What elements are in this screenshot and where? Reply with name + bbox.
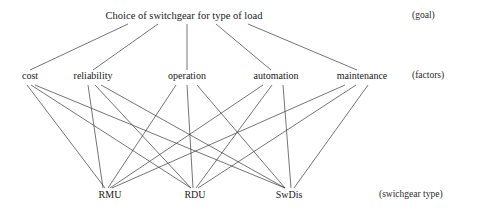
edge-layer xyxy=(0,0,485,216)
edge-automation-to-swdis xyxy=(283,85,291,188)
edge-goal-to-automation xyxy=(216,24,271,70)
goal-node: Choice of switchgear for type of load xyxy=(106,10,263,21)
edge-cost-to-rdu xyxy=(31,85,191,188)
alternatives-annotation: (swichgear type) xyxy=(379,189,443,200)
edge-maintenance-to-rmu xyxy=(112,85,345,188)
edge-reliability-to-swdis xyxy=(101,85,285,188)
factor-node-cost: cost xyxy=(22,70,38,81)
edge-cost-to-rmu xyxy=(27,85,105,188)
edge-automation-to-rmu xyxy=(110,85,263,188)
factor-node-automation: automation xyxy=(254,70,299,81)
edge-goal-to-reliability xyxy=(93,24,158,70)
alternative-node-swdis: SwDis xyxy=(276,189,303,200)
factor-node-reliability: reliability xyxy=(74,70,113,81)
edge-automation-to-rdu xyxy=(196,85,272,188)
factor-node-operation: operation xyxy=(168,70,206,81)
factor-to-alternative-edges xyxy=(27,85,368,188)
edge-cost-to-swdis xyxy=(35,85,285,188)
alternative-node-rdu: RDU xyxy=(184,189,205,200)
edge-operation-to-swdis xyxy=(197,85,285,188)
edge-goal-to-maintenance xyxy=(248,24,357,70)
edge-reliability-to-rdu xyxy=(95,85,191,188)
factors-annotation: (factors) xyxy=(412,70,444,81)
edge-maintenance-to-swdis xyxy=(294,85,368,188)
edge-goal-to-cost xyxy=(30,24,128,70)
hierarchy-diagram: Choice of switchgear for type of load co… xyxy=(0,0,485,216)
edge-reliability-to-rmu xyxy=(88,85,103,188)
edge-operation-to-rmu xyxy=(108,85,176,188)
edge-maintenance-to-rdu xyxy=(198,85,356,188)
edge-operation-to-rdu xyxy=(187,85,193,188)
goal-annotation: (goal) xyxy=(412,10,435,21)
goal-to-factor-edges xyxy=(30,24,357,70)
alternative-node-rmu: RMU xyxy=(99,189,122,200)
factor-node-maintenance: maintenance xyxy=(337,70,388,81)
